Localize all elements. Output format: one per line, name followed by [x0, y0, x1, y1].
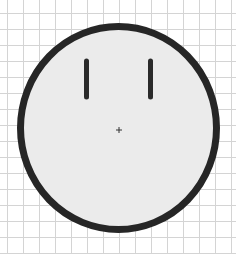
diagram-canvas: [0, 0, 236, 254]
